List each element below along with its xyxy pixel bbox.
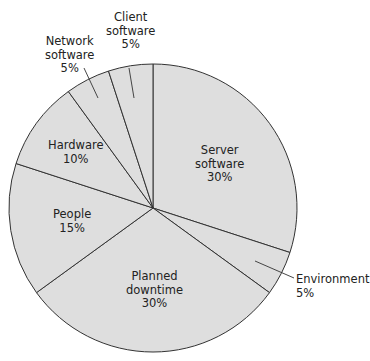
label-pct: 30% [195,171,244,185]
label-pct: 5% [296,287,369,301]
label-text: People [53,208,91,222]
label-client-software: Client software 5% [106,11,155,52]
label-pct: 15% [53,222,91,236]
label-network-software: Network software 5% [45,35,94,76]
label-text: software [106,25,155,39]
label-text: Client [106,11,155,25]
label-pct: 5% [45,62,94,76]
label-planned-downtime: Planned downtime 30% [126,270,183,311]
label-server-software: Server software 30% [195,144,244,185]
label-text: Environment [296,273,369,287]
label-text: Server [195,144,244,158]
label-pct: 5% [106,38,155,52]
label-text: downtime [126,284,183,298]
label-pct: 30% [126,297,183,311]
label-people: People 15% [53,208,91,235]
label-text: Planned [126,270,183,284]
label-text: Network [45,35,94,49]
label-environment: Environment 5% [296,273,369,300]
label-hardware: Hardware 10% [48,139,104,166]
label-pct: 10% [48,153,104,167]
label-text: software [45,49,94,63]
label-text: software [195,158,244,172]
label-text: Hardware [48,139,104,153]
